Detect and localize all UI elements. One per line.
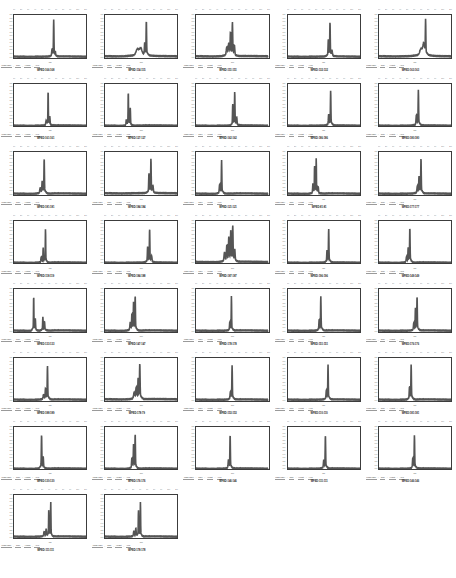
plot-area[interactable] xyxy=(104,288,178,333)
plot-area[interactable] xyxy=(195,357,269,402)
chromatogram-panel[interactable]: 1.02.03.04.05.06.07.08.09.010.011.01.201… xyxy=(274,347,365,416)
x-tick-label: 3.0 xyxy=(27,215,29,217)
chromatogram-panel[interactable]: 1.02.03.04.05.06.07.08.09.010.011.01.201… xyxy=(274,141,365,210)
plot-area[interactable] xyxy=(195,220,269,265)
chromatogram-panel[interactable]: 1.02.03.04.05.06.07.08.09.010.011.01.201… xyxy=(274,73,365,142)
x-tick-label: 8.0 xyxy=(154,9,156,11)
plot-area[interactable] xyxy=(378,14,452,59)
chromatogram-panel[interactable]: 1.02.03.04.05.06.07.08.09.010.011.01.201… xyxy=(91,278,182,347)
x-tick-label: 7.0 xyxy=(329,146,331,148)
chromatogram-panel[interactable]: 1.02.03.04.05.06.07.08.09.010.011.01.201… xyxy=(0,73,91,142)
plot-area[interactable] xyxy=(104,151,178,196)
chromatogram-panel[interactable]: 1.02.03.04.05.06.07.08.09.010.011.01.201… xyxy=(0,4,91,73)
x-tick-label: 7.0 xyxy=(329,284,331,286)
plot-area[interactable] xyxy=(287,426,361,471)
chromatogram-panel[interactable]: 1.02.03.04.05.06.07.08.09.010.011.01.201… xyxy=(365,347,456,416)
x-tick-label: 4.0 xyxy=(308,421,310,423)
chromatogram-panel[interactable]: 1.02.03.04.05.06.07.08.09.010.011.01.201… xyxy=(182,210,273,279)
plot-area[interactable] xyxy=(104,220,178,265)
x-tick-label: 4.0 xyxy=(217,352,219,354)
plot-area[interactable] xyxy=(104,494,178,539)
chromatogram-panel[interactable]: 1.02.03.04.05.06.07.08.09.010.011.01.201… xyxy=(91,73,182,142)
chromatogram-panel[interactable]: 1.02.03.04.05.06.07.08.09.010.011.01.201… xyxy=(365,4,456,73)
meta-label: Mass Label xyxy=(366,270,377,274)
plot-area[interactable] xyxy=(104,426,178,471)
chromatogram-panel[interactable]: 1.02.03.04.05.06.07.08.09.010.011.01.201… xyxy=(365,73,456,142)
x-tick-label: 2.0 xyxy=(111,421,113,423)
chromatogram-panel[interactable]: 1.02.03.04.05.06.07.08.09.010.011.01.201… xyxy=(365,141,456,210)
chromatogram-panel[interactable]: 1.02.03.04.05.06.07.08.09.010.011.01.201… xyxy=(91,484,182,553)
chromatogram-panel[interactable]: 1.02.03.04.05.06.07.08.09.010.011.01.201… xyxy=(0,416,91,485)
plot-area[interactable] xyxy=(195,288,269,333)
chromatogram-panel[interactable]: 1.02.03.04.05.06.07.08.09.010.011.01.201… xyxy=(182,416,273,485)
plot-area[interactable] xyxy=(287,220,361,265)
chromatogram-panel[interactable]: 1.02.03.04.05.06.07.08.09.010.011.01.201… xyxy=(0,347,91,416)
x-tick-label: 2.0 xyxy=(385,215,387,217)
chromatogram-panel[interactable]: 1.02.03.04.05.06.07.08.09.010.011.01.201… xyxy=(365,278,456,347)
plot-area[interactable] xyxy=(378,220,452,265)
chromatogram-trace xyxy=(14,366,86,400)
chromatogram-panel[interactable]: 1.02.03.04.05.06.07.08.09.010.011.01.201… xyxy=(0,210,91,279)
chromatogram-panel[interactable]: 1.02.03.04.05.06.07.08.09.010.011.01.201… xyxy=(274,4,365,73)
plot-area[interactable] xyxy=(104,83,178,128)
panel-meta-strip: Mass Label|Time|Height|Area xyxy=(275,270,364,274)
chromatogram-panel[interactable]: 1.02.03.04.05.06.07.08.09.010.011.01.201… xyxy=(0,141,91,210)
plot-area[interactable] xyxy=(13,83,87,128)
chromatogram-panel[interactable]: 1.02.03.04.05.06.07.08.09.010.011.01.201… xyxy=(274,278,365,347)
chromatogram-panel[interactable]: 1.02.03.04.05.06.07.08.09.010.011.01.201… xyxy=(182,347,273,416)
chromatogram-panel[interactable]: 1.02.03.04.05.06.07.08.09.010.011.01.201… xyxy=(91,347,182,416)
plot-area[interactable] xyxy=(13,151,87,196)
chromatogram-panel[interactable]: 1.02.03.04.05.06.07.08.09.010.011.01.201… xyxy=(274,416,365,485)
meta-label: Height xyxy=(207,338,214,342)
plot-area[interactable] xyxy=(378,83,452,128)
plot-area[interactable] xyxy=(378,151,452,196)
plot-area[interactable] xyxy=(195,151,269,196)
plot-area[interactable] xyxy=(104,357,178,402)
chromatogram-panel[interactable]: 1.02.03.04.05.06.07.08.09.010.011.01.201… xyxy=(182,73,273,142)
plot-area[interactable] xyxy=(13,14,87,59)
chromatogram-trace xyxy=(105,502,177,537)
plot-area[interactable] xyxy=(195,83,269,128)
plot-area[interactable] xyxy=(195,426,269,471)
chromatogram-panel[interactable]: 1.02.03.04.05.06.07.08.09.010.011.01.201… xyxy=(182,4,273,73)
x-tick-label: 6.0 xyxy=(48,489,50,491)
chromatogram-panel[interactable]: 1.02.03.04.05.06.07.08.09.010.011.01.201… xyxy=(182,141,273,210)
chromatogram-panel[interactable]: 1.02.03.04.05.06.07.08.09.010.011.01.201… xyxy=(0,278,91,347)
chromatogram-panel[interactable]: 1.02.03.04.05.06.07.08.09.010.011.01.201… xyxy=(274,210,365,279)
meta-separator: | xyxy=(13,202,14,205)
plot-area[interactable] xyxy=(378,357,452,402)
chromatogram-panel[interactable]: 1.02.03.04.05.06.07.08.09.010.011.01.201… xyxy=(91,210,182,279)
plot-area[interactable] xyxy=(195,14,269,59)
x-tick-label: 3.0 xyxy=(392,78,394,80)
plot-area[interactable] xyxy=(287,151,361,196)
plot-area[interactable] xyxy=(13,494,87,539)
plot-area[interactable] xyxy=(13,357,87,402)
x-tick-label: 6.0 xyxy=(231,146,233,148)
meta-label: Mass Label xyxy=(366,476,377,480)
plot-area[interactable] xyxy=(287,83,361,128)
x-tick-label: 6.0 xyxy=(139,284,141,286)
plot-area[interactable] xyxy=(287,14,361,59)
x-axis-label: min xyxy=(104,404,178,406)
chromatogram-panel[interactable]: 1.02.03.04.05.06.07.08.09.010.011.01.201… xyxy=(365,210,456,279)
plot-area[interactable] xyxy=(287,288,361,333)
x-tick-label: 3.0 xyxy=(210,146,212,148)
plot-area[interactable] xyxy=(13,220,87,265)
chromatogram-panel[interactable]: 1.02.03.04.05.06.07.08.09.010.011.01.201… xyxy=(91,4,182,73)
meta-separator: | xyxy=(196,133,197,136)
chromatogram-panel[interactable]: 1.02.03.04.05.06.07.08.09.010.011.01.201… xyxy=(365,416,456,485)
x-axis-label: min xyxy=(287,198,361,200)
plot-area[interactable] xyxy=(13,288,87,333)
x-tick-label: 7.0 xyxy=(55,78,57,80)
plot-area[interactable] xyxy=(104,14,178,59)
plot-area[interactable] xyxy=(378,288,452,333)
meta-label: Height xyxy=(389,338,396,342)
chromatogram-panel[interactable]: 1.02.03.04.05.06.07.08.09.010.011.01.201… xyxy=(91,416,182,485)
plot-area[interactable] xyxy=(13,426,87,471)
meta-label: Mass Label xyxy=(183,407,194,411)
chromatogram-panel[interactable]: 1.02.03.04.05.06.07.08.09.010.011.01.201… xyxy=(91,141,182,210)
chromatogram-panel[interactable]: 1.02.03.04.05.06.07.08.09.010.011.01.201… xyxy=(0,484,91,553)
chromatogram-panel[interactable]: 1.02.03.04.05.06.07.08.09.010.011.01.201… xyxy=(182,278,273,347)
plot-area[interactable] xyxy=(378,426,452,471)
plot-area[interactable] xyxy=(287,357,361,402)
